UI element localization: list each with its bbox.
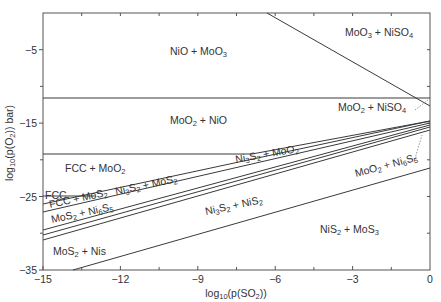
- x-axis-title: log10(p(SO2)): [205, 287, 267, 301]
- x-tick-label: −3: [347, 273, 359, 285]
- region-label-moo3-niso4: MoO3 + NiSO4: [345, 26, 413, 40]
- region-label-moo2-niso4: MoO2 + NiSO4: [338, 101, 406, 115]
- region-label-moo2-ni6s5: MoO2 + Ni6S5: [353, 151, 419, 181]
- phase-diagram-chart: −15 −12 −9 −6 −3 0 −5 −15 −25 −35 log10(…: [0, 0, 441, 302]
- region-label-ni3s2-nis2: Ni3S2 + NiS2: [204, 193, 264, 219]
- y-tick-label: −15: [19, 117, 37, 129]
- region-label-nio-moo3: NiO + MoO3: [170, 45, 227, 59]
- region-label-nis2-mos3: NiS2 + MoS3: [320, 223, 379, 237]
- boundary-nis2-mos3: [73, 168, 430, 270]
- x-tick-labels: −15 −12 −9 −6 −3 0: [34, 273, 433, 285]
- x-tick-label: −12: [111, 273, 129, 285]
- y-tick-labels: −5 −15 −25 −35: [19, 44, 37, 277]
- x-tick-label: −6: [269, 273, 281, 285]
- region-label-mos2-nis: MoS2 + Nis: [53, 245, 106, 259]
- y-axis-title: log10(p(O2)) bar): [3, 105, 17, 181]
- y-tick-label: −25: [19, 191, 37, 203]
- region-label-moo2-nio: MoO2 + NiO: [170, 114, 227, 128]
- region-label-ni3s2-mos2: Ni3S2 + MoS2: [114, 172, 179, 199]
- x-tick-label: 0: [427, 273, 433, 285]
- y-tick-label: −5: [25, 44, 37, 56]
- region-label-fcc-moo2: FCC + MoO2: [65, 162, 125, 176]
- y-tick-label: −35: [19, 264, 37, 276]
- boundary-sulfide-4: [43, 127, 430, 235]
- x-tick-label: −9: [192, 273, 204, 285]
